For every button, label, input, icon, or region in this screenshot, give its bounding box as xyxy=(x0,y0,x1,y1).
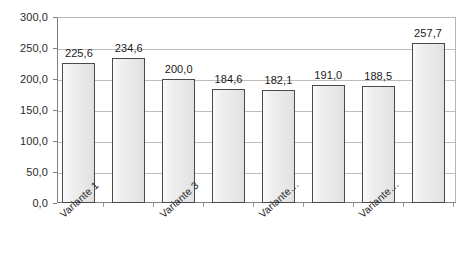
bar-value-label: 234,6 xyxy=(99,42,159,54)
x-axis-tick-mark xyxy=(303,203,304,207)
bar-value-label: 257,7 xyxy=(398,27,458,39)
bars-layer: 225,6234,6200,0184,6182,1191,0188,5257,7 xyxy=(57,17,456,203)
x-axis-tick-mark xyxy=(353,203,354,207)
bar-chart: 0,050,0100,0150,0200,0250,0300,0 225,623… xyxy=(0,0,472,264)
y-axis: 0,050,0100,0150,0200,0250,0300,0 xyxy=(0,0,52,264)
x-axis-tick-mark xyxy=(153,203,154,207)
bar xyxy=(412,43,445,203)
x-axis-tick-mark xyxy=(103,203,104,207)
y-axis-tick-label: 50,0 xyxy=(26,166,48,178)
y-axis-tick-label: 150,0 xyxy=(20,104,48,116)
y-axis-tick-label: 300,0 xyxy=(20,11,48,23)
bar xyxy=(112,58,145,203)
bar xyxy=(312,85,345,203)
y-axis-tick-label: 0,0 xyxy=(32,197,48,209)
bar xyxy=(212,89,245,203)
y-axis-tick-label: 250,0 xyxy=(20,42,48,54)
bar-value-label: 188,5 xyxy=(348,70,408,82)
x-axis-tick-mark xyxy=(203,203,204,207)
x-axis-tick-mark xyxy=(403,203,404,207)
x-axis: Variante 1Variante 3Variante…Variante… xyxy=(57,203,456,264)
x-axis-tick-mark xyxy=(453,203,454,207)
y-axis-tick-label: 100,0 xyxy=(20,135,48,147)
x-axis-tick-mark xyxy=(253,203,254,207)
y-axis-tick-label: 200,0 xyxy=(20,73,48,85)
